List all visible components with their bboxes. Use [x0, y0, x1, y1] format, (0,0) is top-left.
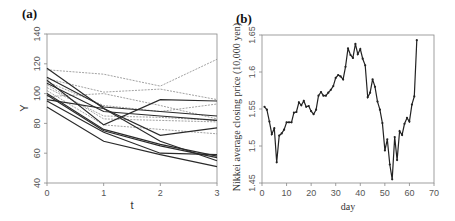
x-tick-label: 20: [306, 188, 316, 198]
data-point-marker: [347, 47, 349, 49]
panel-a-chart: (a) 406080100120140 0123 t Y: [18, 6, 220, 211]
x-tick-label: 10: [282, 188, 292, 198]
data-point-marker: [283, 129, 285, 131]
data-point-marker: [411, 104, 413, 106]
data-point-marker: [332, 85, 334, 87]
panel-b-frame: [262, 35, 434, 183]
data-point-marker: [288, 121, 290, 123]
data-point-marker: [372, 78, 374, 80]
x-tick-label: 2: [158, 188, 163, 198]
x-tick-label: 40: [355, 188, 365, 198]
data-point-marker: [349, 54, 351, 56]
data-point-marker: [381, 122, 383, 124]
y-tick-label: 60: [32, 148, 42, 158]
data-point-marker: [352, 57, 354, 59]
y-tick-label: 40: [32, 178, 42, 188]
data-point-marker: [308, 105, 310, 107]
panel-a-x-ticks: 0123: [44, 183, 219, 198]
data-point-marker: [367, 96, 369, 98]
data-point-marker: [322, 95, 324, 97]
panel-b-x-ticks: 010203040506070: [259, 183, 439, 198]
data-point-marker: [342, 78, 344, 80]
data-point-marker: [330, 89, 332, 91]
data-point-marker: [391, 178, 393, 180]
data-point-marker: [408, 121, 410, 123]
x-tick-label: 50: [380, 188, 390, 198]
panel-b-chart: (b) 1.451.51.551.61.65 010203040506070 d…: [231, 11, 439, 212]
y-tick-label: 120: [32, 56, 42, 71]
series-line: [47, 59, 217, 86]
data-point-marker: [413, 95, 415, 97]
data-point-marker: [303, 100, 305, 102]
data-point-marker: [290, 121, 292, 123]
panel-a-y-label: Y: [18, 104, 30, 112]
data-point-marker: [266, 109, 268, 111]
y-tick-label: 140: [32, 26, 42, 41]
data-point-marker: [386, 138, 388, 140]
data-point-marker: [310, 110, 312, 112]
data-point-marker: [399, 130, 401, 132]
x-tick-label: 3: [214, 188, 219, 198]
data-point-marker: [273, 127, 275, 129]
data-point-marker: [293, 112, 295, 114]
panel-b-y-ticks: 1.451.51.551.61.65: [247, 26, 262, 192]
data-point-marker: [394, 136, 396, 138]
data-point-marker: [376, 101, 378, 103]
y-tick-label: 1.5: [247, 140, 257, 153]
y-tick-label: 1.45: [247, 174, 257, 192]
x-tick-label: 30: [331, 188, 341, 198]
data-point-marker: [344, 66, 346, 68]
data-point-marker: [281, 132, 283, 134]
data-point-marker: [401, 134, 403, 136]
data-point-marker: [278, 135, 280, 137]
price-line: [265, 40, 417, 179]
data-point-marker: [364, 64, 366, 66]
data-point-marker: [337, 74, 339, 76]
panel-b-y-label: Nikkei average closing price (10,000 yen…: [231, 23, 243, 191]
data-point-marker: [403, 123, 405, 125]
x-tick-label: 60: [404, 188, 414, 198]
data-point-marker: [295, 111, 297, 113]
data-point-marker: [315, 109, 317, 111]
data-point-marker: [406, 117, 408, 119]
data-point-marker: [359, 48, 361, 50]
data-point-marker: [300, 104, 302, 106]
y-tick-label: 100: [32, 86, 42, 101]
figure: (a) 406080100120140 0123 t Y (b) 1.451.5…: [0, 0, 455, 221]
panel-a-x-label: t: [130, 199, 133, 211]
y-tick-label: 1.65: [247, 26, 257, 44]
data-point-marker: [286, 121, 288, 123]
data-point-marker: [396, 159, 398, 161]
y-tick-label: 1.55: [247, 100, 257, 118]
panel-a-y-ticks: 406080100120140: [32, 26, 47, 188]
data-point-marker: [271, 133, 273, 135]
data-point-marker: [374, 86, 376, 88]
data-point-marker: [335, 77, 337, 79]
data-point-marker: [268, 121, 270, 123]
data-point-marker: [389, 163, 391, 165]
y-tick-label: 80: [32, 118, 42, 128]
panel-b-x-label: day: [341, 201, 355, 212]
data-point-marker: [384, 149, 386, 151]
data-point-marker: [305, 106, 307, 108]
x-tick-label: 0: [259, 188, 264, 198]
data-point-marker: [362, 58, 364, 60]
data-point-marker: [340, 75, 342, 77]
data-point-marker: [416, 39, 418, 41]
panel-b-line: [263, 39, 418, 180]
data-point-marker: [369, 92, 371, 94]
data-point-marker: [263, 106, 265, 108]
data-point-marker: [298, 101, 300, 103]
data-point-marker: [327, 92, 329, 94]
panel-a-lines: [47, 59, 217, 166]
data-point-marker: [325, 95, 327, 97]
y-tick-label: 1.6: [247, 66, 257, 79]
data-point-marker: [317, 95, 319, 97]
data-point-marker: [354, 43, 356, 45]
data-point-marker: [313, 113, 315, 115]
data-point-marker: [320, 91, 322, 93]
data-point-marker: [379, 109, 381, 111]
panel-a-label: (a): [22, 6, 37, 21]
data-point-marker: [357, 53, 359, 55]
data-point-marker: [276, 161, 278, 163]
